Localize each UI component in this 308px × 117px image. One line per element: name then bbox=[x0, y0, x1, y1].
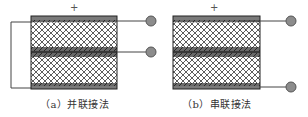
panel-b-top-electrode bbox=[173, 16, 260, 20]
panel-a-upper-mesh-layer bbox=[31, 23, 117, 48]
panel-b-bottom-thin-layer bbox=[173, 83, 260, 86]
panel-a-terminal-1-icon bbox=[146, 16, 156, 26]
panel-b-plus-label: + bbox=[210, 2, 218, 13]
panel-a-lower-mesh-layer bbox=[31, 57, 117, 83]
panel-b-upper-mesh-layer bbox=[173, 23, 260, 48]
panel-a-bottom-thin-layer bbox=[31, 83, 117, 86]
panel-b-middle-layer-2 bbox=[173, 53, 260, 57]
panel-b-lower-mesh-layer bbox=[173, 57, 260, 83]
panel-a-middle-layer-1 bbox=[31, 47, 117, 51]
panel-a-middle-electrode bbox=[31, 51, 117, 53]
panel-b-stack bbox=[173, 16, 260, 89]
panel-a-caption: （a）并联接法 bbox=[40, 96, 109, 111]
panel-b-terminal-2-icon bbox=[286, 82, 296, 92]
panel-b-caption: （b）串联接法 bbox=[182, 96, 252, 111]
panel-a-left-wire bbox=[11, 22, 31, 88]
panel-a-parallel bbox=[11, 16, 156, 89]
panel-a-top-electrode bbox=[31, 16, 117, 20]
panel-a-middle-layer-2 bbox=[31, 53, 117, 57]
panel-b-middle-layer-1 bbox=[173, 47, 260, 51]
panel-a-stack bbox=[31, 16, 117, 89]
panel-b-series bbox=[173, 16, 296, 92]
panel-b-middle-electrode bbox=[173, 51, 260, 53]
panel-a-plus-label: + bbox=[70, 2, 78, 13]
panel-a-top-thin-layer bbox=[31, 20, 117, 23]
panel-a-terminal-2-icon bbox=[146, 47, 156, 57]
panel-b-terminal-1-icon bbox=[286, 16, 296, 26]
